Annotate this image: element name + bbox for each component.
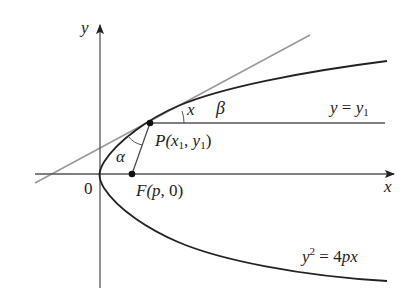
- point-F-label: F(p, 0): [136, 182, 183, 199]
- x-axis-label: x: [187, 101, 195, 118]
- x-axis-label: x: [384, 178, 392, 195]
- parabola-equation-label: y2 = 4px: [302, 246, 358, 265]
- point-P-label: P(x1, y1): [155, 132, 211, 151]
- horizontal-line-label: y = y1: [330, 99, 369, 118]
- origin-label: 0: [84, 180, 93, 197]
- y-axis-label: y: [81, 19, 89, 36]
- parabola-diagram: y x 0 x β α P(x1, y1) F(p, 0) y = y1 y2 …: [0, 0, 418, 305]
- alpha-arc: [128, 136, 142, 145]
- beta-label: β: [216, 99, 225, 117]
- alpha-label: α: [116, 148, 125, 165]
- point-P: [147, 120, 154, 127]
- beta-arc: [182, 111, 184, 123]
- point-F: [129, 171, 136, 178]
